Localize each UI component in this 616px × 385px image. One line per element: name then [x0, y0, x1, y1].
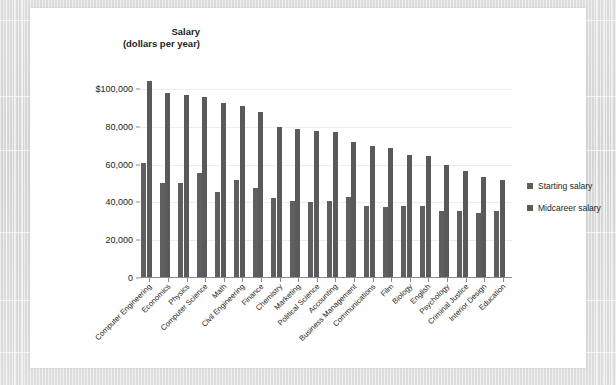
bar-group[interactable]: [214, 70, 233, 278]
y-axis-tick-label: 0: [128, 273, 133, 283]
bar-starting-salary[interactable]: [476, 213, 481, 278]
x-axis-line: [140, 277, 512, 278]
y-axis-title: Salary (dollars per year): [60, 26, 200, 50]
legend-label: Midcareer salary: [538, 203, 601, 213]
bar-group[interactable]: [140, 70, 159, 278]
x-axis-tick-mark: [354, 278, 355, 282]
y-axis-tick-label: 40,000: [105, 197, 133, 207]
bar-starting-salary[interactable]: [197, 173, 202, 278]
legend-item[interactable]: Midcareer salary: [527, 203, 601, 213]
bar-starting-salary[interactable]: [346, 197, 351, 278]
bar-midcareer-salary[interactable]: [240, 106, 245, 278]
y-axis-title-line1: Salary: [60, 26, 200, 38]
bar-starting-salary[interactable]: [290, 201, 295, 278]
x-axis-tick-mark: [484, 278, 485, 282]
bar-midcareer-salary[interactable]: [202, 97, 207, 278]
bar-starting-salary[interactable]: [439, 211, 444, 278]
bar-group[interactable]: [475, 70, 494, 278]
chart-legend: Starting salaryMidcareer salary: [527, 181, 601, 225]
x-axis-tick-mark: [187, 278, 188, 282]
x-axis-tick-mark: [466, 278, 467, 282]
bar-group[interactable]: [196, 70, 215, 278]
bar-midcareer-salary[interactable]: [295, 129, 300, 278]
bar-midcareer-salary[interactable]: [314, 131, 319, 278]
bar-group[interactable]: [456, 70, 475, 278]
bar-midcareer-salary[interactable]: [147, 81, 152, 278]
bar-group[interactable]: [345, 70, 364, 278]
x-axis-tick-mark: [317, 278, 318, 282]
bar-midcareer-salary[interactable]: [351, 142, 356, 278]
bar-midcareer-salary[interactable]: [258, 112, 263, 278]
y-axis-tick-label: 20,000: [105, 235, 133, 245]
bar-midcareer-salary[interactable]: [333, 132, 338, 278]
x-axis-tick-mark: [373, 278, 374, 282]
x-axis-tick-mark: [410, 278, 411, 282]
bar-midcareer-salary[interactable]: [370, 146, 375, 278]
x-axis-tick-mark: [168, 278, 169, 282]
bar-group[interactable]: [438, 70, 457, 278]
y-axis-tick-label: 80,000: [105, 122, 133, 132]
bar-midcareer-salary[interactable]: [426, 156, 431, 278]
x-axis-tick-mark: [335, 278, 336, 282]
bar-group[interactable]: [289, 70, 308, 278]
legend-item[interactable]: Starting salary: [527, 181, 601, 191]
bar-group[interactable]: [177, 70, 196, 278]
bar-group[interactable]: [233, 70, 252, 278]
bar-starting-salary[interactable]: [234, 180, 239, 278]
bar-group[interactable]: [363, 70, 382, 278]
bar-starting-salary[interactable]: [141, 163, 146, 278]
bar-starting-salary[interactable]: [178, 183, 183, 278]
chart-card: Salary (dollars per year) 020,00040,0006…: [30, 8, 586, 368]
bar-starting-salary[interactable]: [308, 202, 313, 278]
bar-group[interactable]: [326, 70, 345, 278]
bar-group[interactable]: [419, 70, 438, 278]
bar-group[interactable]: [270, 70, 289, 278]
bar-starting-salary[interactable]: [420, 206, 425, 278]
backdrop-band: [611, 0, 612, 385]
backdrop-band: [6, 0, 7, 385]
bar-starting-salary[interactable]: [457, 211, 462, 278]
bar-starting-salary[interactable]: [494, 211, 499, 278]
bar-midcareer-salary[interactable]: [221, 103, 226, 278]
x-axis-tick-mark: [205, 278, 206, 282]
bar-group[interactable]: [400, 70, 419, 278]
backdrop-band: [604, 0, 605, 385]
x-axis-tick-mark: [242, 278, 243, 282]
x-axis-tick-mark: [224, 278, 225, 282]
bar-group[interactable]: [159, 70, 178, 278]
legend-swatch-icon: [527, 205, 533, 211]
bar-group[interactable]: [382, 70, 401, 278]
x-axis-tick-mark: [391, 278, 392, 282]
bar-starting-salary[interactable]: [364, 206, 369, 278]
bar-midcareer-salary[interactable]: [407, 155, 412, 278]
bar-midcareer-salary[interactable]: [277, 127, 282, 278]
y-axis-tick-label: 60,000: [105, 160, 133, 170]
bar-midcareer-salary[interactable]: [388, 148, 393, 278]
bar-midcareer-salary[interactable]: [463, 171, 468, 278]
bar-midcareer-salary[interactable]: [500, 180, 505, 278]
bar-starting-salary[interactable]: [383, 207, 388, 278]
backdrop-band: [22, 0, 23, 385]
y-axis-title-line2: (dollars per year): [60, 38, 200, 50]
bar-starting-salary[interactable]: [401, 206, 406, 278]
bar-starting-salary[interactable]: [271, 198, 276, 278]
legend-swatch-icon: [527, 183, 533, 189]
bar-starting-salary[interactable]: [327, 201, 332, 278]
x-axis-tick-mark: [428, 278, 429, 282]
bar-starting-salary[interactable]: [253, 188, 258, 278]
bar-midcareer-salary[interactable]: [444, 165, 449, 278]
y-axis-tick-label: $100,000: [95, 84, 133, 94]
bar-group[interactable]: [493, 70, 512, 278]
bar-group[interactable]: [307, 70, 326, 278]
bar-starting-salary[interactable]: [160, 183, 165, 278]
x-axis-tick-mark: [261, 278, 262, 282]
bar-midcareer-salary[interactable]: [165, 93, 170, 278]
bar-starting-salary[interactable]: [215, 192, 220, 278]
bar-midcareer-salary[interactable]: [184, 95, 189, 278]
bar-group[interactable]: [252, 70, 271, 278]
bar-midcareer-salary[interactable]: [481, 177, 486, 278]
legend-label: Starting salary: [538, 181, 592, 191]
x-axis-tick-mark: [503, 278, 504, 282]
x-axis-tick-mark: [280, 278, 281, 282]
x-axis-tick-mark: [149, 278, 150, 282]
